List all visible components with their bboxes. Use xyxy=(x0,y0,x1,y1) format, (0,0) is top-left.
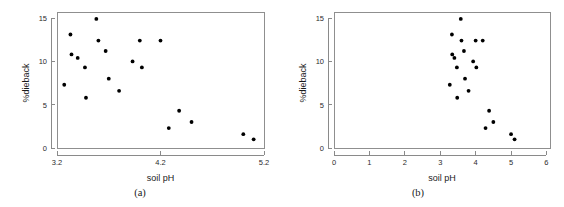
x-axis-title: soil pH xyxy=(147,173,175,183)
panel-b: 0510150123456soil pH%dieback(b) xyxy=(282,0,564,207)
figure-container: 0510153.24.25.2soil pH%dieback(a) 051015… xyxy=(0,0,564,207)
data-point xyxy=(448,83,452,87)
data-point xyxy=(462,49,466,53)
data-point xyxy=(491,120,495,124)
data-point xyxy=(452,56,456,60)
data-point xyxy=(69,33,73,37)
data-point xyxy=(450,53,454,57)
y-tick-label: 10 xyxy=(316,57,324,66)
x-tick-label: 6 xyxy=(544,158,548,167)
panel-a: 0510153.24.25.2soil pH%dieback(a) xyxy=(0,0,282,207)
x-tick-label: 3.2 xyxy=(52,158,62,167)
y-tick-label: 5 xyxy=(43,101,47,110)
x-axis-title: soil pH xyxy=(428,173,456,183)
data-point xyxy=(481,39,485,43)
y-tick-label: 0 xyxy=(43,144,47,153)
data-point xyxy=(241,132,245,136)
data-point xyxy=(467,89,471,93)
plot-frame xyxy=(57,12,264,148)
y-tick-label: 15 xyxy=(39,14,47,23)
data-point xyxy=(471,59,475,63)
data-point xyxy=(459,17,463,21)
data-point xyxy=(177,109,181,113)
data-point xyxy=(94,17,98,21)
data-point xyxy=(463,77,467,81)
x-tick-label: 1 xyxy=(367,158,371,167)
data-point xyxy=(131,59,135,63)
panel-caption: (a) xyxy=(134,187,146,199)
panel-caption: (b) xyxy=(412,187,425,199)
data-point xyxy=(455,66,459,70)
y-axis-title: %dieback xyxy=(21,63,31,103)
x-tick-label: 4 xyxy=(474,158,478,167)
data-point xyxy=(167,126,171,130)
data-point xyxy=(450,33,454,37)
data-point xyxy=(487,109,491,113)
data-point xyxy=(474,39,478,43)
y-tick-label: 10 xyxy=(39,57,47,66)
data-point xyxy=(107,77,111,81)
x-tick-label: 5.2 xyxy=(259,158,269,167)
plot-frame xyxy=(334,12,550,148)
data-point xyxy=(117,89,121,93)
y-tick-label: 5 xyxy=(320,101,324,110)
data-point xyxy=(513,137,517,141)
data-point xyxy=(140,66,144,70)
data-point xyxy=(70,53,74,57)
scatter-plot-a: 0510153.24.25.2soil pH%dieback(a) xyxy=(0,0,282,207)
data-point xyxy=(62,83,66,87)
x-tick-label: 5 xyxy=(509,158,513,167)
x-tick-label: 0 xyxy=(332,158,336,167)
data-point xyxy=(474,66,478,70)
data-point xyxy=(460,39,464,43)
data-point xyxy=(84,96,88,100)
data-point xyxy=(138,39,142,43)
data-point xyxy=(190,120,194,124)
y-tick-label: 0 xyxy=(320,144,324,153)
data-point xyxy=(484,126,488,130)
scatter-plot-b: 0510150123456soil pH%dieback(b) xyxy=(282,0,564,207)
data-point xyxy=(159,39,163,43)
data-point xyxy=(97,39,101,43)
data-point xyxy=(252,137,256,141)
data-point xyxy=(104,49,108,53)
y-tick-label: 15 xyxy=(316,14,324,23)
x-tick-label: 4.2 xyxy=(155,158,165,167)
data-point xyxy=(83,66,87,70)
data-point-group xyxy=(62,17,255,141)
x-tick-label: 3 xyxy=(438,158,442,167)
data-point xyxy=(76,56,80,60)
x-tick-label: 2 xyxy=(403,158,407,167)
y-axis-title: %dieback xyxy=(298,63,308,103)
data-point-group xyxy=(448,17,517,141)
data-point xyxy=(509,132,513,136)
data-point xyxy=(455,96,459,100)
